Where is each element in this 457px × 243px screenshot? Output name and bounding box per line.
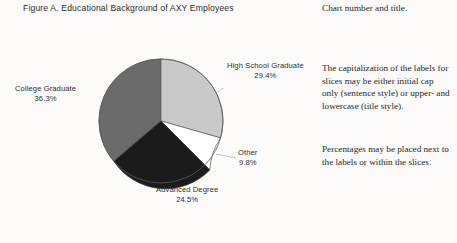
slice-label-other: Other 9.8%: [238, 148, 258, 169]
pie-chart: High School Graduate 29.4% College Gradu…: [0, 0, 312, 243]
leader-line-high-school: [217, 88, 224, 92]
slice-label-text: Advanced Degree: [156, 185, 218, 194]
slice-label-high-school-graduate: High School Graduate 29.4%: [227, 61, 304, 82]
slice-label-text: College Graduate: [15, 84, 76, 93]
document-page: Figure A. Educational Background of AXY …: [0, 0, 457, 243]
slice-percent-text: 29.4%: [227, 71, 304, 81]
pie-chart-graphic: [0, 0, 312, 243]
annotation-note-3: Percentages may be placed next to the la…: [322, 143, 450, 168]
slice-percent-text: 24.5%: [156, 195, 218, 205]
annotation-note-2: The capitalization of the labels for sli…: [322, 62, 450, 112]
slice-percent-text: 9.8%: [238, 158, 258, 168]
slice-label-text: Other: [238, 148, 258, 157]
slice-percent-text: 36.3%: [15, 94, 76, 104]
slice-label-college-graduate: College Graduate 36.3%: [15, 84, 76, 105]
leader-line-other: [216, 154, 236, 158]
slice-label-text: High School Graduate: [227, 61, 304, 70]
annotation-note-1: Chart number and title.: [322, 2, 450, 15]
slice-label-advanced-degree: Advanced Degree 24.5%: [156, 185, 218, 206]
